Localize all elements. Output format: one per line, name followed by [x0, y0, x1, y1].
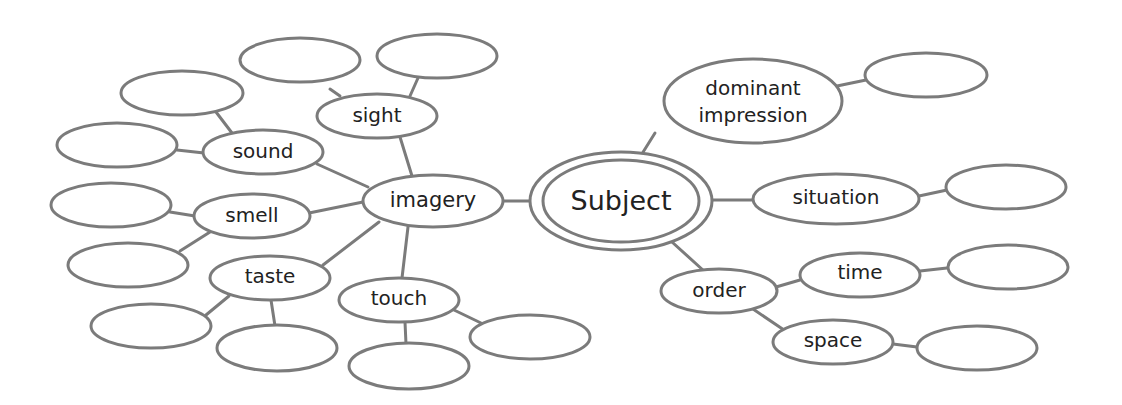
blank-node-time[interactable]: [948, 245, 1068, 289]
node-order: order: [661, 269, 777, 313]
label-taste: taste: [245, 264, 296, 288]
label-smell: smell: [225, 203, 278, 227]
edge-touch-blank-right: [454, 310, 481, 323]
node-smell: smell: [194, 194, 310, 238]
label-touch: touch: [371, 286, 427, 310]
edge-sound-blank-top: [216, 112, 232, 133]
edge-taste-blank-below: [271, 300, 275, 326]
blank-node-touch-below[interactable]: [349, 343, 469, 389]
blank-node-sound-top[interactable]: [121, 71, 243, 115]
edge-sound-blank-left: [177, 150, 204, 153]
node-sound: sound: [203, 130, 323, 174]
edge-taste-imagery: [323, 222, 379, 265]
blank-node-taste-left[interactable]: [91, 304, 211, 348]
edge-space-blank: [893, 344, 917, 347]
label-sight: sight: [352, 103, 401, 127]
node-taste: taste: [210, 256, 330, 300]
label-imagery: imagery: [390, 188, 476, 212]
blank-node-smell-left[interactable]: [51, 183, 171, 227]
node-time: time: [800, 253, 920, 297]
edge-situation-blank: [919, 190, 947, 196]
node-subject: Subject: [530, 152, 712, 250]
edge-smell-blank-lower: [180, 232, 210, 251]
blank-node-situation[interactable]: [946, 165, 1066, 209]
label-subject: Subject: [571, 185, 672, 216]
label-situation: situation: [792, 185, 879, 209]
label-order: order: [692, 278, 746, 302]
label-impression: impression: [698, 103, 807, 127]
edge-sight-imagery: [400, 137, 412, 176]
blank-node-touch-right[interactable]: [470, 315, 590, 359]
cluster-diagram: sight sound imagery smell taste touch Su…: [0, 0, 1122, 405]
blank-node-taste-below[interactable]: [217, 325, 337, 371]
node-sight: sight: [317, 94, 437, 138]
blank-node-sound-left[interactable]: [57, 123, 177, 167]
edge-sight-blank-right: [410, 78, 418, 96]
node-dominant-impression: dominant impression: [664, 59, 842, 143]
node-touch: touch: [339, 278, 459, 322]
edge-taste-blank-left: [206, 296, 229, 315]
edge-touch-imagery: [402, 227, 408, 278]
node-imagery: imagery: [363, 175, 503, 227]
edge-sight-blank-left: [330, 89, 340, 96]
label-space: space: [804, 328, 863, 352]
edge-dominant-blank: [837, 80, 866, 86]
blank-node-smell-lower[interactable]: [68, 243, 188, 287]
blank-node-space[interactable]: [917, 326, 1037, 370]
label-time: time: [837, 260, 882, 284]
edge-order-time: [776, 280, 800, 287]
edge-smell-blank-left: [170, 212, 195, 216]
edge-smell-imagery: [309, 202, 363, 213]
label-dominant: dominant: [705, 76, 801, 100]
edge-subject-order: [672, 242, 704, 271]
node-space: space: [773, 320, 893, 364]
blank-node-dominant[interactable]: [865, 53, 987, 97]
label-sound: sound: [233, 139, 294, 163]
node-situation: situation: [753, 174, 919, 224]
edge-time-blank: [920, 268, 947, 271]
blank-node-sight-left[interactable]: [240, 38, 360, 82]
blank-node-sight-right[interactable]: [377, 34, 497, 78]
edge-touch-blank-below: [405, 322, 406, 344]
edge-sound-imagery: [317, 164, 368, 187]
edge-order-space: [753, 309, 784, 330]
